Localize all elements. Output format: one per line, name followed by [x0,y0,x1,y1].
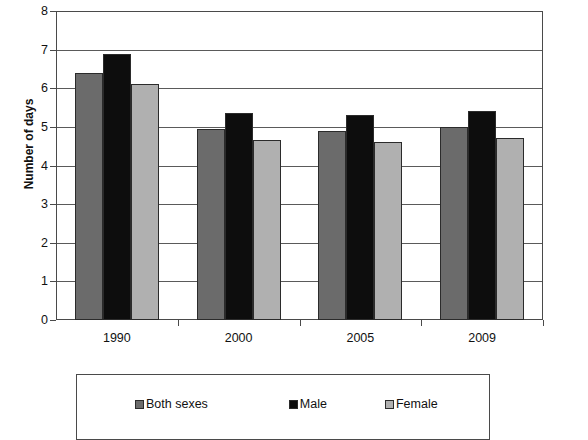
legend-label: Both sexes [146,397,208,411]
bar [496,138,524,320]
y-axis-tick-label: 8 [26,5,48,18]
legend-swatch-icon [135,400,144,409]
bar [346,115,374,320]
bar [75,73,103,320]
bar [103,54,131,321]
bar [253,140,281,320]
y-axis-tick-label: 4 [26,160,48,173]
y-axis-tick-mark [50,11,56,12]
bar [440,127,468,320]
y-axis-tick-mark [50,50,56,51]
bar-group [197,11,281,320]
y-axis-tick-mark [50,166,56,167]
y-axis-tick-label: 0 [26,314,48,327]
bars-layer [56,11,543,320]
chart-legend: Both sexesMaleFemale [76,374,490,440]
y-axis-tick-label: 5 [26,121,48,134]
bar [374,142,402,320]
y-axis-tick-mark [50,204,56,205]
legend-item: Male [289,397,327,411]
x-axis-tick-mark [421,320,422,326]
bar-group [75,11,159,320]
legend-item: Both sexes [135,397,208,411]
bar-group [440,11,524,320]
y-axis-tick-label: 7 [26,44,48,57]
x-axis-tick-label: 2009 [440,331,524,345]
legend-label: Male [300,397,327,411]
y-axis-tick-label: 2 [26,237,48,250]
legend-label: Female [396,397,438,411]
bar [225,113,253,320]
bar-group [318,11,402,320]
chart-title-cropped [60,0,530,5]
legend-item: Female [385,397,438,411]
x-axis-tick-label: 2000 [197,331,281,345]
bar [318,131,346,320]
y-axis-tick-mark [50,320,56,321]
legend-row: Both sexesMaleFemale [77,397,489,411]
y-axis-tick-mark [50,88,56,89]
x-axis-tick-mark [178,320,179,326]
y-axis-tick-label: 6 [26,82,48,95]
bar [131,84,159,320]
bar [468,111,496,320]
y-axis-tick-mark [50,243,56,244]
x-axis-tick-mark [543,320,544,326]
y-axis-tick-mark [50,281,56,282]
y-axis-tick-label: 1 [26,275,48,288]
bar [197,129,225,320]
legend-swatch-icon [385,400,394,409]
legend-swatch-icon [289,400,298,409]
x-axis-tick-label: 2005 [318,331,402,345]
y-axis-tick-mark [50,127,56,128]
x-axis-tick-label: 1990 [75,331,159,345]
x-axis-tick-mark [300,320,301,326]
y-axis-tick-label: 3 [26,198,48,211]
